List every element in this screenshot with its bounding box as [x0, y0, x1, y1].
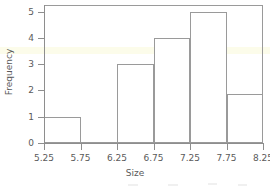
x-axis-tick: [190, 144, 191, 150]
y-axis-tick: [38, 38, 44, 39]
histogram-bar: [154, 38, 191, 143]
y-axis-tick: [38, 90, 44, 91]
y-axis-tick-label: 0: [14, 139, 34, 148]
x-axis-tick: [44, 144, 45, 150]
x-axis-tick: [227, 144, 228, 150]
y-axis-tick: [38, 12, 44, 13]
y-axis-tick: [38, 117, 44, 118]
histogram-bar: [44, 117, 81, 143]
x-axis-tick-label: 6.75: [137, 153, 171, 163]
x-axis-title: Size: [0, 168, 270, 178]
x-axis-tick-label: 5.25: [27, 153, 61, 163]
scan-artifact: [238, 184, 247, 186]
scan-artifact: [128, 184, 138, 186]
y-axis-tick-label: 2: [14, 86, 34, 95]
x-axis-tick-label: 7.25: [173, 153, 207, 163]
y-axis-tick: [38, 64, 44, 65]
x-axis-tick-label: 6.25: [100, 153, 134, 163]
y-axis-line: [44, 5, 45, 144]
histogram-bar: [190, 12, 227, 144]
x-axis-tick: [81, 144, 82, 150]
y-axis-tick-label: 5: [14, 8, 34, 17]
x-axis-tick: [117, 144, 118, 150]
y-axis-tick-label: 3: [14, 60, 34, 69]
y-axis-title: Frequency: [4, 42, 14, 102]
scan-artifact: [168, 184, 178, 186]
x-axis-tick: [263, 144, 264, 150]
x-axis-tick-label: 7.75: [210, 153, 244, 163]
histogram-screenshot: 012345 5.255.756.256.757.257.758.25 Size…: [0, 0, 270, 191]
x-axis-tick-label: 8.25: [246, 153, 270, 163]
x-axis-tick-label: 5.75: [64, 153, 98, 163]
y-axis-tick-label: 4: [14, 34, 34, 43]
scan-artifact: [208, 183, 217, 185]
y-axis-tick-label: 1: [14, 113, 34, 122]
x-axis-tick: [154, 144, 155, 150]
histogram-bar: [117, 64, 154, 143]
histogram-bar: [227, 94, 264, 143]
